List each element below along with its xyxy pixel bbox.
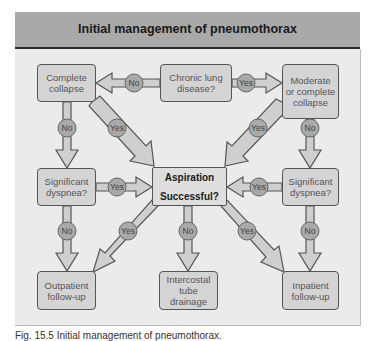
svg-text:Yes: Yes bbox=[110, 182, 124, 192]
node-label: Significant dyspnea? bbox=[289, 176, 333, 198]
node-intercostal-tube-drainage: Intercostal tube drainage bbox=[159, 271, 218, 310]
svg-text:No: No bbox=[129, 78, 140, 88]
node-label: Chronic lung disease? bbox=[169, 72, 222, 94]
svg-text:No: No bbox=[62, 226, 73, 236]
node-significant-dyspnea-right: Significant dyspnea? bbox=[282, 168, 339, 206]
svg-text:No: No bbox=[305, 123, 316, 133]
svg-text:No: No bbox=[62, 123, 73, 133]
node-complete-collapse: Complete collapse bbox=[37, 64, 96, 102]
svg-text:Yes: Yes bbox=[121, 226, 135, 236]
svg-text:No: No bbox=[305, 226, 316, 236]
successful-label: Successful? bbox=[160, 191, 219, 202]
badge-complete-to-aspiration: Yes bbox=[108, 119, 126, 137]
badge-moderate-to-aspiration: Yes bbox=[249, 119, 267, 137]
node-significant-dyspnea-left: Significant dyspnea? bbox=[37, 168, 96, 206]
node-label: Outpatient follow-up bbox=[45, 280, 89, 302]
node-inpatient-followup: Inpatient follow-up bbox=[282, 271, 339, 310]
badge-dyspnea-left-to-aspiration: Yes bbox=[108, 178, 126, 196]
node-aspiration: Aspiration Successful? bbox=[152, 167, 227, 206]
badge-chronic-to-complete: No bbox=[125, 74, 143, 92]
badge-dyspnea-right-to-aspiration: Yes bbox=[250, 178, 268, 196]
svg-text:No: No bbox=[183, 226, 194, 236]
node-label: Inpatient follow-up bbox=[291, 280, 329, 302]
node-moderate-or-complete-collapse: Moderate or complete collapse bbox=[282, 64, 339, 119]
figure-caption: Fig. 15.5 Initial management of pneumoth… bbox=[15, 330, 222, 341]
node-label: Intercostal tube drainage bbox=[167, 274, 211, 307]
badge-dyspnea-left-to-outpatient: No bbox=[58, 222, 76, 240]
badge-moderate-to-dyspnea: No bbox=[301, 119, 319, 137]
svg-text:Yes: Yes bbox=[251, 123, 265, 133]
node-chronic-lung-disease: Chronic lung disease? bbox=[160, 64, 232, 102]
node-label: Moderate or complete collapse bbox=[286, 75, 336, 108]
badge-dyspnea-right-to-inpatient: No bbox=[301, 222, 319, 240]
badge-aspiration-to-inpatient: Yes bbox=[238, 222, 256, 240]
badge-chronic-to-moderate: Yes bbox=[237, 74, 255, 92]
badge-aspiration-to-outpatient: Yes bbox=[119, 222, 137, 240]
node-label: Complete collapse bbox=[46, 72, 87, 94]
svg-text:Yes: Yes bbox=[240, 226, 254, 236]
svg-text:Yes: Yes bbox=[110, 123, 124, 133]
node-label: Significant dyspnea? bbox=[45, 176, 89, 198]
svg-text:Yes: Yes bbox=[239, 78, 253, 88]
node-outpatient-followup: Outpatient follow-up bbox=[37, 271, 96, 310]
badge-aspiration-to-drainage: No bbox=[179, 222, 197, 240]
aspiration-label: Aspiration bbox=[165, 172, 214, 183]
svg-text:Yes: Yes bbox=[252, 182, 266, 192]
badge-complete-to-dyspnea: No bbox=[58, 119, 76, 137]
